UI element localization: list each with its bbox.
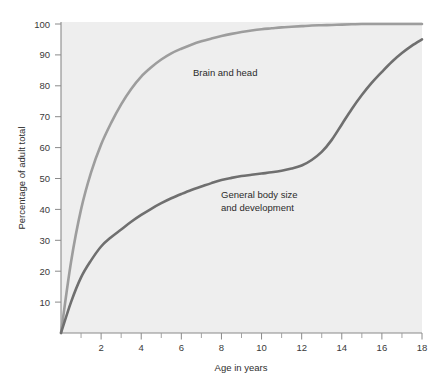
series-label-brain-and-head: Brain and head bbox=[193, 67, 257, 78]
y-axis-tick-labels: 100 90 80 70 60 50 40 30 20 10 bbox=[34, 19, 50, 308]
x-tick-label-6: 6 bbox=[179, 342, 184, 353]
series-label-general-body-size-line2: and development bbox=[221, 202, 294, 213]
y-tick-label-40: 40 bbox=[39, 204, 50, 215]
growth-curves-figure: 100 90 80 70 60 50 40 30 20 10 bbox=[0, 0, 447, 385]
y-tick-label-60: 60 bbox=[39, 142, 50, 153]
chart-svg: 100 90 80 70 60 50 40 30 20 10 bbox=[0, 0, 447, 385]
y-tick-label-20: 20 bbox=[39, 266, 50, 277]
x-tick-label-16: 16 bbox=[377, 342, 388, 353]
x-tick-label-12: 12 bbox=[296, 342, 307, 353]
y-tick-label-90: 90 bbox=[39, 49, 50, 60]
x-tick-label-8: 8 bbox=[219, 342, 224, 353]
y-tick-label-100: 100 bbox=[34, 19, 50, 30]
x-tick-label-18: 18 bbox=[417, 342, 428, 353]
y-tick-label-50: 50 bbox=[39, 173, 50, 184]
x-axis-ticks bbox=[81, 333, 422, 340]
y-axis-ticks bbox=[55, 24, 61, 302]
y-axis-title: Percentage of adult total bbox=[16, 127, 27, 230]
x-axis-title: Age in years bbox=[215, 362, 268, 373]
x-axis-tick-labels: 2 4 6 8 10 12 14 16 18 bbox=[98, 342, 427, 353]
y-tick-label-80: 80 bbox=[39, 80, 50, 91]
y-tick-label-70: 70 bbox=[39, 111, 50, 122]
series-label-general-body-size-line1: General body size bbox=[221, 189, 298, 200]
y-tick-label-30: 30 bbox=[39, 235, 50, 246]
x-tick-label-2: 2 bbox=[98, 342, 103, 353]
y-tick-label-10: 10 bbox=[39, 297, 50, 308]
x-tick-label-14: 14 bbox=[336, 342, 347, 353]
x-tick-label-10: 10 bbox=[256, 342, 267, 353]
x-tick-label-4: 4 bbox=[139, 342, 144, 353]
